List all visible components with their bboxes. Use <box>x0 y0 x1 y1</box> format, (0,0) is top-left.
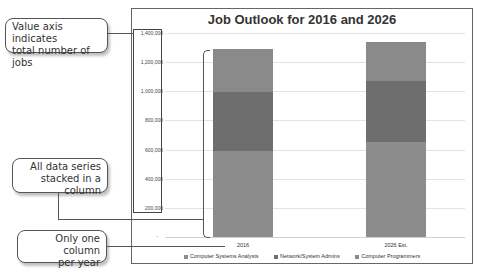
segment-network-system-admins <box>366 81 426 142</box>
stack-bracket <box>203 50 210 238</box>
callout-text: Only one column <box>24 233 100 257</box>
legend-swatch <box>184 255 188 259</box>
bar-2016 <box>213 49 273 237</box>
callout-leader-line <box>58 219 204 220</box>
legend-item: Computer Programmers <box>355 253 420 259</box>
callout-text: All data series <box>19 161 101 173</box>
segment-computer-programmers <box>213 49 273 92</box>
segment-computer-systems-analysts <box>213 151 273 237</box>
gridline <box>165 33 465 34</box>
y-tick: 1,400,000 <box>133 30 163 36</box>
callout-text: per year <box>24 257 100 269</box>
bar-2026 <box>366 42 426 237</box>
legend-swatch <box>274 255 278 259</box>
legend-item: Network/System Admins <box>274 253 340 259</box>
legend-item: Computer Systems Analysts <box>184 253 259 259</box>
legend-label: Network/System Admins <box>280 253 340 259</box>
x-label-2026: 2026 Est. <box>356 242 436 248</box>
y-tick: 400,000 <box>133 176 163 182</box>
y-tick: 1,200,000 <box>133 59 163 65</box>
callout-text: stacked in a column <box>19 173 101 197</box>
segment-network-system-admins <box>213 92 273 151</box>
chart-title: Job Outlook for 2016 and 2026 <box>131 12 473 27</box>
legend-label: Computer Systems Analysts <box>190 253 259 259</box>
legend-label: Computer Programmers <box>361 253 420 259</box>
segment-computer-systems-analysts <box>366 142 426 237</box>
y-tick: 1,000,000 <box>133 88 163 94</box>
callout-text: Value axis indicates <box>12 21 101 45</box>
y-tick: 800,000 <box>133 117 163 123</box>
callout-value-axis: Value axis indicates total number of job… <box>5 18 108 53</box>
legend-swatch <box>355 255 359 259</box>
legend: Computer Systems Analysts Network/System… <box>131 253 473 259</box>
callout-leader-line <box>58 193 59 219</box>
y-tick: - <box>133 233 158 239</box>
callout-stacked: All data series stacked in a column <box>12 158 108 193</box>
segment-computer-programmers <box>366 42 426 81</box>
y-tick: 600,000 <box>133 147 163 153</box>
x-label-2016: 2016 <box>203 242 283 248</box>
callout-leader-line <box>108 33 133 34</box>
callout-text: total number of jobs <box>12 45 101 69</box>
callout-leader-line <box>107 246 225 247</box>
x-axis-line <box>165 237 465 238</box>
y-tick: 200,000 <box>133 205 163 211</box>
callout-one-column: Only one column per year <box>17 230 107 263</box>
